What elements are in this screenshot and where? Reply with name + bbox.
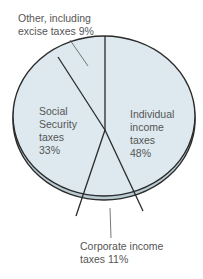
label-ind-line3: taxes xyxy=(130,134,174,147)
label-corp-line1: Corporate income xyxy=(80,240,163,253)
pie-chart: Other, including excise taxes 9% Social … xyxy=(0,0,203,279)
label-ind-line2: income xyxy=(130,121,174,134)
label-corporate: Corporate income taxes 11% xyxy=(80,240,163,266)
label-corp-line2: taxes 11% xyxy=(80,253,163,266)
leader-corporate xyxy=(110,208,111,238)
label-ss-line4: 33% xyxy=(39,144,77,157)
label-social-security: Social Security taxes 33% xyxy=(39,105,77,157)
label-other-line1: Other, including xyxy=(18,12,94,25)
label-ind-line1: Individual xyxy=(130,108,174,121)
label-other-line2: excise taxes 9% xyxy=(18,25,94,38)
label-ind-line4: 48% xyxy=(130,147,174,160)
label-ss-line3: taxes xyxy=(39,131,77,144)
label-individual: Individual income taxes 48% xyxy=(130,108,174,160)
label-ss-line1: Social xyxy=(39,105,77,118)
label-other: Other, including excise taxes 9% xyxy=(18,12,94,38)
label-ss-line2: Security xyxy=(39,118,77,131)
